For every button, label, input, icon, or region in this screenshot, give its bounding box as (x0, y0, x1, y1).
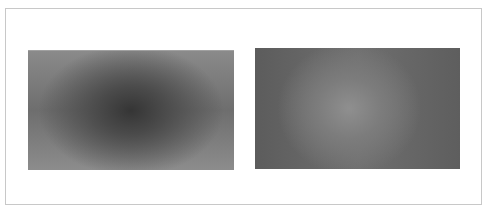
right-gradient-image (255, 48, 460, 169)
left-gradient-image (28, 50, 234, 170)
